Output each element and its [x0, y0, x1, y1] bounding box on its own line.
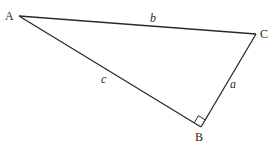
side-a-line — [201, 34, 256, 127]
vertex-label-a: A — [5, 9, 14, 23]
vertex-label-c: C — [260, 27, 268, 41]
side-label-b: b — [150, 11, 156, 25]
side-c-line — [19, 16, 201, 127]
side-label-a: a — [230, 77, 236, 91]
vertex-label-b: B — [195, 130, 203, 144]
side-label-c: c — [101, 72, 107, 86]
side-b-line — [19, 16, 256, 34]
right-triangle-diagram: A C B b a c — [0, 0, 274, 145]
